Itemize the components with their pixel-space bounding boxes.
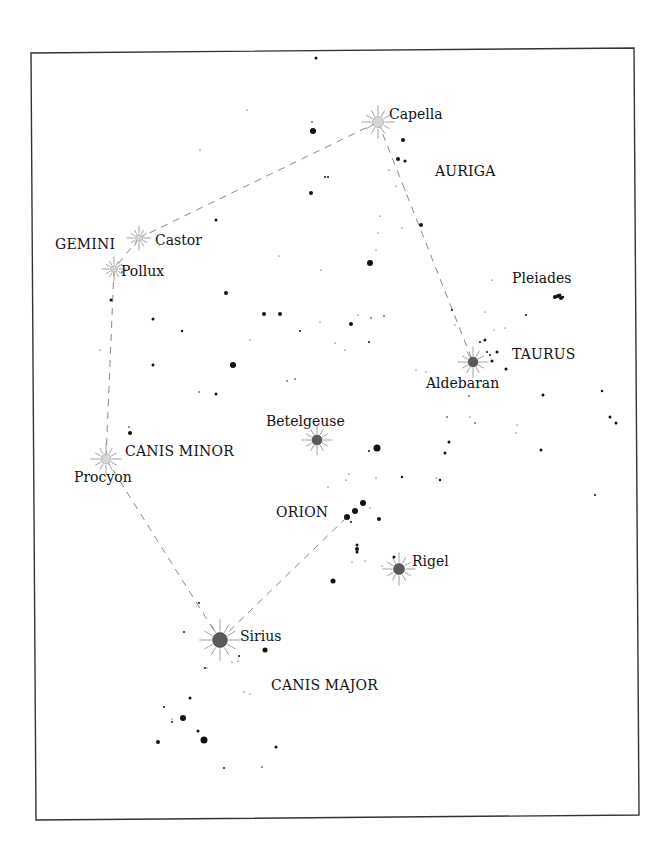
star-dot [230,362,236,368]
star-dot [484,339,487,342]
star-dot [396,157,400,161]
star-dot [348,473,349,474]
star-dot [249,693,250,694]
star-dot [206,667,207,668]
star-dot [345,479,346,480]
star-dot [493,329,494,330]
constellation-label-canis-major: CANIS MAJOR [271,677,378,693]
star-dot [364,560,365,561]
star-dot [331,579,336,584]
star-dot [444,452,447,455]
star-dot [356,544,359,547]
star-dot [377,232,378,233]
star-dot [601,390,603,392]
star-dot [128,431,132,435]
star-dot [278,255,279,256]
star-aldebaran-icon [458,347,489,378]
star-dot [351,561,352,562]
star-dot [344,349,345,350]
star-dot [435,477,436,478]
star-label-pollux: Pollux [121,263,164,279]
star-dot [224,291,228,295]
star-dot [310,128,316,134]
star-label-rigel: Rigel [412,553,449,569]
star-dot [278,312,282,316]
star-dot [484,311,485,312]
star-dot [275,746,278,749]
star-dot [505,368,508,371]
star-dot [542,394,545,397]
star-dot [263,648,268,653]
star-betelgeuse-icon [302,425,333,456]
star-dot [383,315,385,317]
background-stars [99,57,617,770]
star-dot [357,314,358,315]
star-dot [439,479,441,481]
star-dot [294,378,296,380]
star-dot [299,330,301,332]
star-dot [344,514,350,520]
star-dot [171,721,173,723]
star-label-aldebaran: Aldebaran [425,375,499,391]
constellation-label-gemini: GEMINI [55,236,115,252]
star-dot [594,494,596,496]
star-dot [215,219,218,222]
star-dot [451,309,453,311]
constellation-line [220,517,347,640]
star-dot [425,371,426,372]
star-dot [356,551,359,554]
star-dot [370,317,372,319]
star-dot [197,730,200,733]
star-dot [152,318,155,321]
star-dot [448,441,451,444]
star-dot [375,249,376,250]
star-dot [261,766,263,768]
star-dot [198,602,200,604]
star-dot [262,312,266,316]
constellation-line [106,269,114,459]
constellation-label-orion: ORION [276,504,328,520]
star-dot [540,449,543,452]
star-dot [315,57,318,60]
star-dot [489,354,491,356]
star-dot [327,486,328,487]
star-dot [204,667,206,669]
star-dot [201,737,208,744]
star-dot [446,416,448,418]
star-dot [198,391,200,393]
star-dot [311,121,313,123]
star-dot [360,500,366,506]
star-dot [334,342,335,343]
star-dot [401,227,402,228]
star-dot [243,691,244,692]
star-dot [349,322,353,326]
star-dot [515,432,516,433]
star-label-sirius: Sirius [240,628,281,644]
star-dot [415,369,416,370]
star-label-betelgeuse: Betelgeuse [266,413,345,429]
star-dot [562,296,564,298]
star-dot [381,565,382,566]
star-dot [309,191,313,195]
star-dot [367,260,373,266]
labels: CapellaCastorPolluxAldebaranBetelgeusePr… [55,106,576,693]
star-dot [404,160,407,163]
star-dot [504,327,505,328]
star-dot [379,215,380,216]
star-dot [486,351,488,353]
star-dot [388,169,389,170]
star-dot [615,422,618,425]
constellation-line [106,459,220,640]
star-sirius-icon [199,619,241,661]
star-dot [286,380,288,382]
star-dot [377,517,381,521]
star-dot [249,339,250,340]
star-dot [474,422,476,424]
star-dot [110,299,113,302]
star-dot [401,476,403,478]
star-dot [516,424,517,425]
star-dot [319,321,320,322]
star-dot [231,661,232,662]
star-dot [496,351,499,354]
star-dot [238,655,240,657]
